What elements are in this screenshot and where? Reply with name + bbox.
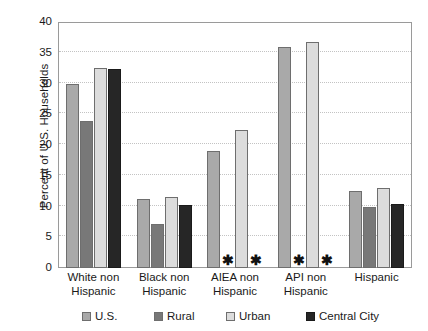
x-tick-label-line2: Hispanic — [200, 284, 271, 298]
y-tick-label: 30 — [18, 78, 52, 90]
bar — [278, 47, 291, 268]
bar-group: ✱✱ — [200, 22, 271, 268]
x-tick-label: Hispanic — [341, 270, 412, 284]
x-tick-label-line2: Hispanic — [58, 284, 129, 298]
x-tick-label-line2: Hispanic — [270, 284, 341, 298]
bar — [94, 68, 107, 268]
bar — [165, 197, 178, 268]
missing-value-marker: ✱ — [221, 254, 234, 266]
bar — [349, 191, 362, 268]
y-tick-label: 20 — [18, 139, 52, 151]
bar — [137, 199, 150, 268]
y-tick-label: 0 — [18, 262, 52, 274]
x-tick-label-line1: Hispanic — [355, 271, 399, 283]
x-tick-label-line1: Black non — [139, 271, 190, 283]
x-tick-label-line1: AIEA non — [211, 271, 259, 283]
bar — [391, 204, 404, 268]
legend-label: Urban — [239, 310, 270, 322]
legend-item[interactable]: Central City — [306, 310, 379, 322]
x-tick-label-line1: White non — [68, 271, 120, 283]
legend-label: U.S. — [95, 310, 117, 322]
legend-swatch-icon — [306, 312, 315, 321]
bar-chart: Percent of U.S. Households 0510152025303… — [0, 0, 428, 331]
x-tick-label: API nonHispanic — [270, 270, 341, 298]
bar — [66, 84, 79, 269]
chart-legend: U.S.RuralUrbanCentral City — [58, 307, 412, 325]
x-tick-label: AIEA nonHispanic — [200, 270, 271, 298]
bar — [235, 130, 248, 268]
bar — [108, 69, 121, 268]
bar — [151, 224, 164, 268]
bar-group — [129, 22, 200, 268]
bars-layer: ✱✱✱✱ — [58, 22, 412, 268]
x-axis-tick-labels: White nonHispanicBlack nonHispanicAIEA n… — [58, 270, 412, 304]
bar — [207, 151, 220, 268]
x-tick-label-line1: API non — [285, 271, 326, 283]
legend-swatch-icon — [226, 312, 235, 321]
legend-item[interactable]: Rural — [154, 310, 194, 322]
bar-group: ✱✱ — [270, 22, 341, 268]
legend-swatch-icon — [154, 312, 163, 321]
missing-value-marker: ✱ — [320, 254, 333, 266]
bar — [80, 121, 93, 268]
bar-group — [58, 22, 129, 268]
y-tick-label: 35 — [18, 47, 52, 59]
y-tick-label: 10 — [18, 201, 52, 213]
legend-swatch-icon — [82, 312, 91, 321]
missing-value-marker: ✱ — [249, 254, 262, 266]
x-tick-label: White nonHispanic — [58, 270, 129, 298]
missing-value-marker: ✱ — [292, 254, 305, 266]
y-tick-label: 15 — [18, 170, 52, 182]
bar — [306, 42, 319, 268]
bar-group — [341, 22, 412, 268]
y-tick-label: 40 — [18, 16, 52, 28]
x-tick-label-line2: Hispanic — [129, 284, 200, 298]
y-tick-label: 5 — [18, 231, 52, 243]
bar — [363, 207, 376, 269]
y-tick-label: 25 — [18, 108, 52, 120]
legend-label: Rural — [167, 310, 194, 322]
legend-label: Central City — [319, 310, 379, 322]
x-tick-label: Black nonHispanic — [129, 270, 200, 298]
bar — [377, 188, 390, 268]
legend-item[interactable]: Urban — [226, 310, 270, 322]
bar — [179, 205, 192, 268]
legend-item[interactable]: U.S. — [82, 310, 117, 322]
